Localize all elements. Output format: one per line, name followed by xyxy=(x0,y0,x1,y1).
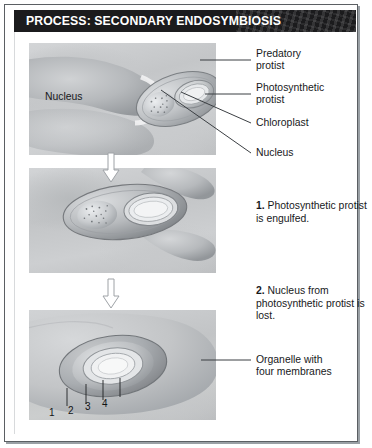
figure-header-bar: PROCESS: SECONDARY ENDOSYMBIOSIS xyxy=(14,10,356,32)
step-2-text: Nucleus from photosynthetic protist is l… xyxy=(256,285,365,321)
step-1-text: Photosynthetic protist is engulfed. xyxy=(256,200,367,224)
step-1-caption: 1. Photosynthetic protist is engulfed. xyxy=(256,200,372,225)
arrow-down-icon xyxy=(103,153,119,182)
membrane-tick-label-1: 1 xyxy=(49,407,55,418)
figure-content: Nucleus Predatory protist Photosynthetic… xyxy=(14,32,357,434)
process-arrow-2 xyxy=(101,279,121,309)
step-2-caption: 2. Nucleus from photosynthetic protist i… xyxy=(256,285,372,323)
membrane-tick-label-4: 4 xyxy=(102,398,108,409)
page-title: PROCESS: SECONDARY ENDOSYMBIOSIS xyxy=(26,13,281,28)
step-2-number: 2. xyxy=(256,285,265,296)
panel-1: Nucleus xyxy=(29,43,216,155)
step-1-number: 1. xyxy=(256,200,265,211)
nucleus-inline-label: Nucleus xyxy=(45,91,83,102)
membrane-tick-label-3: 3 xyxy=(85,401,91,412)
callout-photosynthetic-protist: Photosynthetic protist xyxy=(256,82,324,107)
panel-2-illustration xyxy=(29,168,216,273)
panel-3 xyxy=(29,310,216,420)
photosynthetic-protist-cell xyxy=(129,62,216,137)
process-arrow-1 xyxy=(101,153,121,183)
arrow-down-icon xyxy=(103,279,119,308)
panel-3-illustration xyxy=(29,310,216,420)
callout-nucleus: Nucleus xyxy=(256,147,294,159)
callout-predatory-protist: Predatory protist xyxy=(256,48,301,73)
panel-2 xyxy=(29,168,216,273)
callout-organelle: Organelle with four membranes xyxy=(256,354,332,379)
callout-chloroplast: Chloroplast xyxy=(256,117,309,129)
membrane-tick-label-2: 2 xyxy=(68,405,74,416)
pseudopod-lower xyxy=(29,109,154,155)
